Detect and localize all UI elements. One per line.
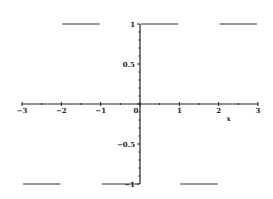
- x-axis-label: x: [226, 114, 232, 123]
- chart: −3−2−1012310.5−0.5−1x: [0, 0, 273, 199]
- x-tick-label: −1: [95, 106, 106, 115]
- y-tick-label: 0.5: [123, 60, 135, 69]
- x-tick-label: 3: [256, 106, 261, 115]
- x-tick-label: −3: [17, 106, 28, 115]
- x-tick-label: 1: [177, 106, 182, 115]
- x-tick-label: −2: [56, 106, 67, 115]
- x-tick-label: 2: [216, 106, 221, 115]
- y-tick-label: 1: [130, 20, 135, 29]
- y-tick-label: −1: [124, 180, 135, 189]
- y-tick-label: −0.5: [117, 140, 135, 149]
- axes: [22, 24, 258, 184]
- x-tick-label: 0: [134, 106, 139, 115]
